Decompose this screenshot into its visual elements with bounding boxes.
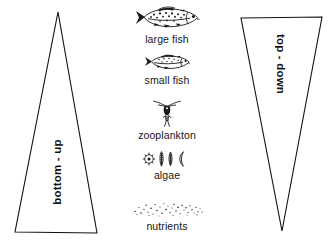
algae-cell-pennate-2 xyxy=(169,152,172,166)
trophic-level-nutrients: nutrients xyxy=(108,199,226,242)
trophic-level-zooplankton: zooplankton xyxy=(108,98,226,147)
algae-icon xyxy=(142,150,192,168)
algae-cell-pennate-1 xyxy=(160,151,163,166)
bottom-up-label: bottom - up xyxy=(51,139,63,204)
trophic-level-label: zooplankton xyxy=(138,129,196,141)
top-down-label: top - down xyxy=(275,34,287,94)
small-fish-icon xyxy=(144,51,190,73)
trophic-level-large-fish: large fish xyxy=(108,4,226,53)
trophic-level-small-fish: small fish xyxy=(108,51,226,96)
trophic-level-label: small fish xyxy=(145,74,190,86)
diagram-canvas: bottom - up top - down xyxy=(0,0,335,244)
algae-cell-crescent xyxy=(180,151,184,165)
trophic-level-algae: algae xyxy=(108,150,226,193)
zooplankton-icon xyxy=(152,98,182,128)
trophic-level-label: nutrients xyxy=(146,220,187,232)
nutrients-icon xyxy=(129,199,205,219)
algae-cell-radial xyxy=(143,152,155,165)
trophic-level-label: large fish xyxy=(145,33,189,45)
trophic-level-label: algae xyxy=(154,169,180,181)
trophic-level-column: large fish xyxy=(108,4,226,242)
large-fish-icon xyxy=(134,4,200,32)
